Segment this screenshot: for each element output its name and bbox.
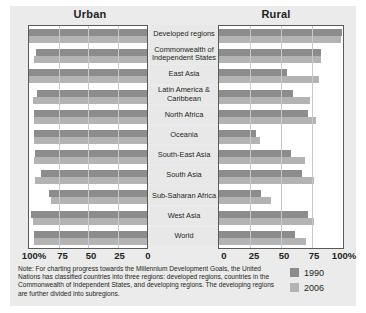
category-label: Sub-Saharan Africa (150, 186, 218, 205)
bar-1990 (219, 110, 308, 117)
axis-tick-label: 50 (86, 250, 97, 261)
axis-tick-label: 0 (145, 250, 150, 261)
bar-2006 (33, 97, 147, 104)
bar-2006 (33, 218, 147, 225)
category-label-column: Developed regionsCommonwealth of Indepen… (150, 25, 218, 249)
axis-tick-label: 0 (221, 250, 226, 261)
gridline (312, 26, 313, 248)
bar-2006 (219, 238, 306, 245)
bar-2006 (34, 157, 147, 164)
bar-2006 (219, 218, 314, 225)
legend-swatch (290, 283, 299, 292)
x-axis-urban: 100%7550250 (16, 250, 162, 264)
gridline (59, 26, 60, 248)
bar-2006 (219, 197, 271, 204)
category-label: North Africa (150, 106, 218, 125)
legend-label: 2006 (304, 283, 324, 293)
bar-1990 (34, 231, 147, 238)
axis-tick-label: 25 (114, 250, 125, 261)
gridline (118, 26, 119, 248)
bar-2006 (34, 238, 147, 245)
category-label: World (150, 227, 218, 246)
panel-title-urban: Urban (20, 8, 160, 20)
category-label: South Asia (150, 166, 218, 185)
chart-container: Urban Rural Developed regionsCommonwealt… (10, 6, 356, 306)
bar-2006 (35, 177, 147, 184)
bar-2006 (34, 117, 147, 124)
bar-2006 (219, 157, 305, 164)
bar-1990 (31, 211, 147, 218)
axis-tick-label: 25 (249, 250, 260, 261)
legend-swatch (290, 268, 299, 277)
category-label: South-East Asia (150, 146, 218, 165)
panel-title-rural: Rural (206, 8, 346, 20)
category-label: West Asia (150, 207, 218, 226)
chart-note: Note: For charting progress towards the … (18, 265, 276, 298)
bar-1990 (34, 110, 147, 117)
category-label: Commonwealth of Independent States (150, 45, 218, 64)
bar-1990 (36, 49, 147, 56)
bar-1990 (219, 69, 287, 76)
gridline (281, 26, 282, 248)
category-label: Latin America & Caribbean (150, 86, 218, 105)
bar-1990 (219, 190, 261, 197)
bar-1990 (41, 170, 147, 177)
axis-tick-label: 75 (309, 250, 320, 261)
bar-1990 (219, 211, 308, 218)
axis-tick-label: 100% (332, 250, 356, 261)
bar-1990 (219, 170, 302, 177)
bar-2006 (51, 197, 147, 204)
bar-2006 (34, 56, 147, 63)
bar-2006 (219, 76, 319, 83)
bar-2006 (219, 97, 310, 104)
legend-item: 1990 (290, 266, 348, 279)
bar-1990 (35, 150, 147, 157)
bar-1990 (34, 130, 147, 137)
axis-tick-label: 50 (279, 250, 290, 261)
gridline (88, 26, 89, 248)
bar-2006 (219, 137, 260, 144)
axis-tick-label: 75 (57, 250, 68, 261)
chart-legend: 19902006 (290, 266, 348, 296)
plot-area-rural (218, 25, 344, 249)
category-label: Developed regions (150, 25, 218, 44)
axis-tick-label: 100% (22, 250, 46, 261)
bar-2006 (34, 137, 147, 144)
x-axis-rural: 0255075100% (214, 250, 360, 264)
panel-headers: Urban Rural (10, 6, 356, 25)
bar-2006 (219, 56, 321, 63)
bar-2006 (219, 36, 341, 43)
bar-1990 (219, 49, 321, 56)
category-label: Oceania (150, 126, 218, 145)
bar-2006 (219, 177, 314, 184)
plot-area-urban (28, 25, 148, 249)
bar-1990 (49, 190, 147, 197)
legend-item: 2006 (290, 281, 348, 294)
chart-footer: Note: For charting progress towards the … (18, 265, 348, 301)
bar-1990 (219, 90, 293, 97)
category-label: East Asia (150, 65, 218, 84)
bar-1990 (37, 90, 147, 97)
gridline (250, 26, 251, 248)
legend-label: 1990 (304, 268, 324, 278)
bar-2006 (219, 117, 316, 124)
bar-1990 (219, 231, 295, 238)
